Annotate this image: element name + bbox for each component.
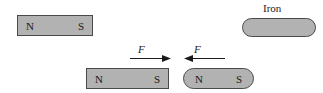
top-bar-magnet-north-pole-label: N	[26, 20, 34, 31]
top-bar-magnet-south-pole-label: S	[78, 20, 84, 31]
right-force-arrow-left-icon	[183, 54, 225, 63]
left-force-arrow-right-icon	[130, 54, 172, 63]
top-bar-magnet: N S	[17, 15, 93, 36]
magnet-force-figure: N S Iron N S N S F F	[0, 0, 323, 93]
bottom-bar-magnet-south-pole-label: S	[154, 73, 160, 84]
bottom-rounded-magnet: N S	[183, 68, 254, 89]
bottom-bar-magnet: N S	[86, 68, 169, 89]
iron-caption: Iron	[263, 3, 281, 14]
bottom-bar-magnet-north-pole-label: N	[95, 73, 103, 84]
bottom-rounded-magnet-south-pole-label: S	[236, 73, 242, 84]
bottom-rounded-magnet-north-pole-label: N	[195, 73, 203, 84]
iron-bar	[242, 18, 316, 37]
